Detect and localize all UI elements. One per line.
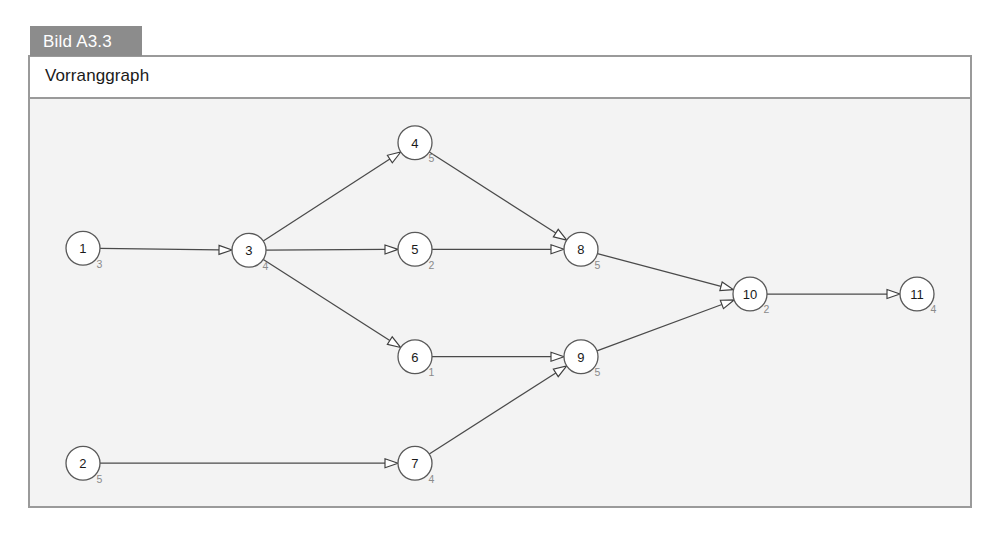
graph-edge-3-to-5: [266, 245, 398, 254]
graph-node-label: 8: [577, 242, 584, 257]
graph-node-duration: 1: [429, 367, 435, 378]
graph-node-label: 5: [411, 242, 418, 257]
graph-node-label: 7: [411, 456, 418, 471]
graph-node-duration: 5: [595, 367, 601, 378]
figure-tab-label: Bild A3.3: [30, 26, 142, 56]
graph-edge-9-to-10: [597, 300, 734, 351]
edges-layer: [100, 152, 900, 468]
graph-node-label: 10: [743, 287, 757, 302]
graph-node-11[interactable]: 114: [900, 277, 937, 315]
graph-node-2[interactable]: 25: [66, 446, 103, 484]
figure-caption: Vorranggraph: [45, 66, 149, 86]
graph-edge-6-to-9: [432, 352, 564, 361]
graph-node-3[interactable]: 34: [232, 233, 269, 271]
graph-node-6[interactable]: 61: [398, 340, 435, 378]
graph-edge-3-to-6: [263, 259, 400, 347]
graph-node-duration: 4: [429, 474, 435, 485]
graph-node-label: 1: [79, 241, 86, 256]
nodes-layer: 132534455261748595102114: [66, 126, 937, 485]
graph-node-label: 6: [411, 350, 418, 365]
graph-node-duration: 2: [429, 260, 435, 271]
graph-edge-5-to-8: [432, 245, 564, 254]
graph-node-1[interactable]: 13: [66, 231, 103, 269]
precedence-graph-svg: 132534455261748595102114: [30, 99, 970, 506]
precedence-graph-canvas: 132534455261748595102114: [30, 99, 970, 506]
graph-edge-3-to-4: [263, 152, 401, 241]
graph-node-label: 3: [245, 243, 252, 258]
graph-node-4[interactable]: 45: [398, 126, 435, 164]
graph-edge-1-to-3: [100, 245, 232, 254]
graph-node-duration: 5: [429, 153, 435, 164]
graph-node-duration: 5: [97, 474, 103, 485]
graph-node-label: 2: [79, 456, 86, 471]
graph-node-label: 4: [411, 136, 418, 151]
graph-edge-2-to-7: [100, 459, 398, 468]
graph-node-label: 11: [910, 287, 923, 302]
graph-node-7[interactable]: 74: [398, 446, 435, 484]
graph-node-duration: 4: [931, 304, 937, 315]
graph-edge-8-to-10: [597, 254, 733, 291]
figure-frame: Vorranggraph 132534455261748595102114: [28, 55, 972, 508]
graph-node-8[interactable]: 85: [564, 232, 601, 270]
figure-caption-row: Vorranggraph: [30, 57, 970, 99]
graph-node-9[interactable]: 95: [564, 340, 601, 378]
graph-edge-10-to-11: [767, 290, 900, 299]
graph-edge-4-to-8: [429, 152, 566, 240]
graph-node-duration: 5: [595, 260, 601, 271]
graph-edge-7-to-9: [429, 366, 566, 454]
graph-node-duration: 3: [97, 259, 103, 270]
graph-node-5[interactable]: 52: [398, 232, 435, 270]
graph-node-label: 9: [577, 350, 584, 365]
graph-node-duration: 4: [263, 261, 269, 272]
graph-node-duration: 2: [764, 304, 770, 315]
graph-node-10[interactable]: 102: [733, 277, 770, 315]
